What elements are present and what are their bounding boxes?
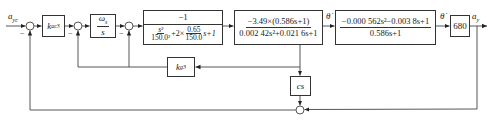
block-integrator: ωs s <box>90 14 116 38</box>
sum1-minus-sign: − <box>20 29 25 38</box>
block-k-ac3: kac3 <box>42 15 65 37</box>
block-gain-680: 680 <box>450 15 470 37</box>
block-actuator: −1 s²150.0² +2× 0.65150.0 s+1 <box>143 10 223 45</box>
output-signal-label: ay <box>472 11 479 23</box>
sum3-minus-sign: − <box>119 29 124 38</box>
sum-junction-1 <box>26 22 34 30</box>
theta-dot-label-2: θ̇ <box>440 11 444 21</box>
block-airframe-rate: −3.49×(0.586s+1) 0.002 42s²+0.021 6s+1 <box>234 10 323 45</box>
theta-dot-label-1: θ̇ <box>326 11 330 21</box>
block-k-g3: kg3 <box>167 57 195 77</box>
sum-junction-4 <box>296 106 304 114</box>
sum2-minus-sign: − <box>68 29 73 38</box>
input-signal-label: ayc <box>8 11 18 23</box>
block-airframe-accel: −0.000 562s²−0.003 8s+1 0.586s+1 <box>335 10 436 45</box>
sum-junction-3 <box>125 22 133 30</box>
block-cs: cs <box>290 76 311 96</box>
sum-junction-2 <box>74 22 82 30</box>
